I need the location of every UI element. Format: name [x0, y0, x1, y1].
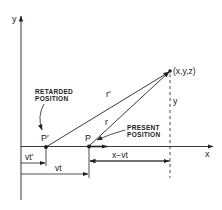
present-point-label: P	[85, 133, 91, 143]
y-dimension: y	[170, 74, 178, 178]
x-minus-vt-dimension: x−vt	[90, 150, 170, 161]
present-annotation-line2: POSITION	[127, 131, 160, 138]
retarded-pointer-arrow	[40, 104, 44, 130]
y-axis-label: y	[12, 14, 17, 24]
present-position: P PRESENT POSITION	[85, 124, 160, 149]
vt-prime-label: vt′	[25, 152, 34, 162]
diagram-canvas: y x r′ r (x,y,z) y P′ RETARDED POSITION …	[0, 0, 222, 210]
r-label: r	[105, 117, 108, 127]
retarded-annotation-line2: POSITION	[35, 95, 68, 102]
r-prime-label: r′	[106, 89, 111, 99]
field-point: (x,y,z)	[168, 66, 195, 76]
retarded-position: P′ RETARDED POSITION	[35, 88, 73, 149]
x-axis-label: x	[205, 149, 210, 159]
vt-label: vt	[55, 163, 62, 173]
present-annotation-line1: PRESENT	[127, 124, 160, 131]
retarded-point-label: P′	[41, 133, 49, 143]
y-axis: y	[12, 14, 21, 200]
retarded-annotation-line1: RETARDED	[35, 88, 73, 95]
vt-dimension: vt	[21, 163, 88, 174]
x-minus-vt-label: x−vt	[112, 150, 128, 160]
vt-prime-dimension: vt′	[21, 152, 45, 163]
y-dimension-label: y	[173, 96, 178, 106]
field-point-label: (x,y,z)	[173, 66, 196, 76]
